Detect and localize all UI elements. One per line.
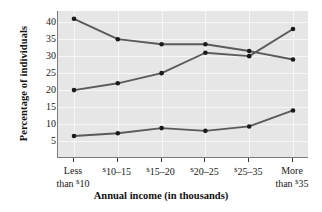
series-line-series-2 bbox=[74, 29, 293, 90]
data-point-marker bbox=[72, 134, 77, 139]
data-point-marker bbox=[247, 49, 252, 54]
data-point-marker bbox=[72, 17, 77, 22]
y-axis-tick-label: 40 bbox=[22, 17, 56, 27]
y-axis-tick-label: 25 bbox=[22, 68, 56, 78]
x-axis-tick-mark bbox=[73, 158, 74, 162]
x-axis-tick-mark bbox=[117, 158, 118, 162]
data-point-marker bbox=[291, 27, 296, 32]
data-point-marker bbox=[203, 42, 208, 47]
y-axis-tick-label: 15 bbox=[22, 102, 56, 112]
data-point-marker bbox=[159, 42, 164, 47]
data-point-marker bbox=[159, 126, 164, 131]
series-line-series-3 bbox=[74, 110, 293, 135]
data-point-marker bbox=[247, 124, 252, 129]
series-lines bbox=[58, 11, 308, 158]
x-axis-tick-mark bbox=[248, 158, 249, 162]
x-axis-title: Annual income (in thousands) bbox=[0, 190, 322, 201]
series-line-series-1 bbox=[74, 19, 293, 60]
plot-area bbox=[57, 11, 308, 158]
data-point-marker bbox=[203, 129, 208, 134]
y-axis-tick-label: 5 bbox=[22, 136, 56, 146]
data-point-marker bbox=[291, 57, 296, 62]
x-axis-tick-mark bbox=[161, 158, 162, 162]
x-axis-tick-mark bbox=[204, 158, 205, 162]
data-point-marker bbox=[159, 71, 164, 76]
data-point-marker bbox=[72, 88, 77, 93]
data-point-marker bbox=[291, 108, 296, 113]
x-axis-tick-label: Morethan $35 bbox=[259, 165, 322, 189]
x-axis-tick-mark bbox=[292, 158, 293, 162]
data-point-marker bbox=[203, 50, 208, 55]
data-point-marker bbox=[116, 131, 121, 136]
data-point-marker bbox=[116, 37, 121, 42]
y-axis-tick-label: 20 bbox=[22, 85, 56, 95]
data-point-marker bbox=[247, 54, 252, 59]
y-axis-tick-label: 10 bbox=[22, 119, 56, 129]
line-chart-figure: Percentage of individuals 40353025201510… bbox=[0, 0, 322, 212]
y-axis-tick-label: 30 bbox=[22, 51, 56, 61]
data-point-marker bbox=[116, 81, 121, 86]
y-axis-tick-label: 35 bbox=[22, 34, 56, 44]
